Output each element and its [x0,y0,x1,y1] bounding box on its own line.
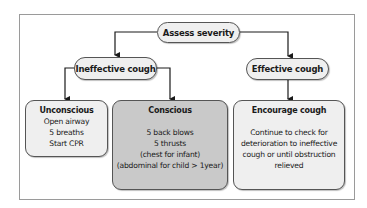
node-line [113,116,227,127]
node-line: 5 thrusts [113,138,227,149]
node-line: 5 breaths [26,127,107,138]
node-label: Effective cough [252,64,323,74]
node-title: Encourage cough [234,105,344,116]
node-label: Assess severity [163,28,234,38]
arrow-ineffective-to-unconscious [65,68,74,99]
node-title: Unconscious [26,105,107,116]
node-conscious: Conscious 5 back blows 5 thrusts (chest … [112,100,228,190]
node-line: cough or until obstruction [234,149,344,160]
node-effective-cough: Effective cough [246,58,329,80]
node-line: relieved [234,160,344,171]
arrow-assess-to-effective [240,32,288,56]
node-unconscious: Unconscious Open airway 5 breaths Start … [25,100,108,157]
node-assess-severity: Assess severity [157,22,240,43]
node-line: deterioration to ineffective [234,138,344,149]
node-line: (chest for infant) [113,149,227,160]
node-line: 5 back blows [113,127,227,138]
node-line: Continue to check for [234,127,344,138]
arrow-ineffective-to-conscious [157,68,170,99]
node-line [234,116,344,127]
arrow-assess-to-ineffective [115,32,157,55]
node-line: Start CPR [26,138,107,149]
node-ineffective-cough: Ineffective cough [74,57,157,80]
node-encourage-cough: Encourage cough Continue to check for de… [233,100,345,190]
node-line: Open airway [26,116,107,127]
node-label: Ineffective cough [75,64,155,74]
node-title: Conscious [113,105,227,116]
node-line: (abdominal for child > 1year) [113,160,227,171]
